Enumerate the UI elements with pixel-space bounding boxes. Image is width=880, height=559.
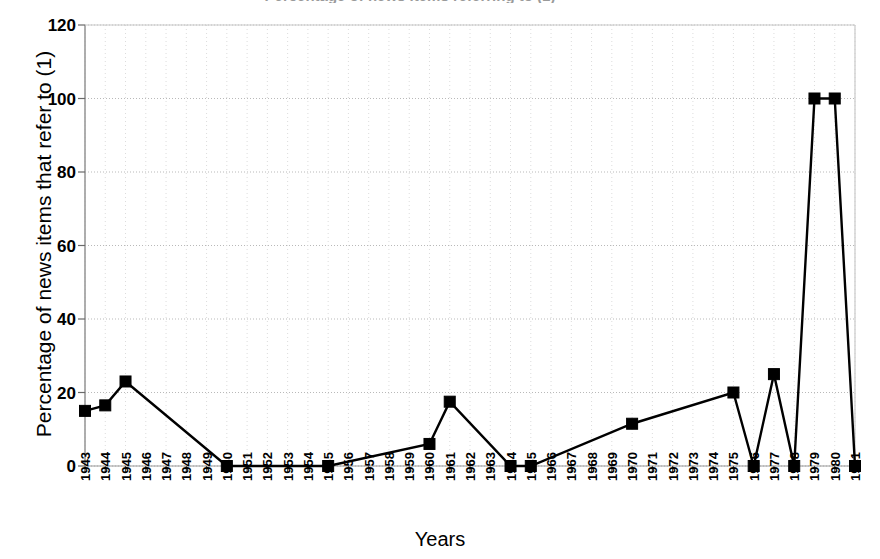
x-tick-label-1959: 1959	[403, 452, 416, 504]
x-tick-label-1976: 1976	[748, 452, 761, 504]
chart-figure: Percentage of news items referring to (1…	[0, 0, 880, 559]
x-tick-label-1964: 1964	[505, 452, 518, 504]
x-tick-label-1980: 1980	[829, 452, 842, 504]
x-tick-label-1971: 1971	[646, 452, 659, 504]
x-tick-label-1960: 1960	[423, 452, 436, 504]
x-tick-label-1955: 1955	[322, 452, 335, 504]
x-tick-label-1957: 1957	[363, 452, 376, 504]
x-tick-label-1981: 1981	[849, 452, 862, 504]
x-tick-label-1963: 1963	[484, 452, 497, 504]
x-tick-label-1962: 1962	[464, 452, 477, 504]
x-tick-label-1953: 1953	[282, 452, 295, 504]
x-tick-label-1944: 1944	[99, 452, 112, 504]
x-tick-label-1950: 1950	[221, 452, 234, 504]
x-tick-label-1975: 1975	[727, 452, 740, 504]
x-tick-label-1974: 1974	[707, 452, 720, 504]
x-tick-label-1954: 1954	[302, 452, 315, 504]
x-tick-label-1970: 1970	[626, 452, 639, 504]
x-tick-label-1946: 1946	[140, 452, 153, 504]
x-tick-label-1943: 1943	[79, 452, 92, 504]
x-tick-label-1968: 1968	[586, 452, 599, 504]
x-axis-title: Years	[0, 528, 880, 551]
x-tick-label-1969: 1969	[606, 452, 619, 504]
x-tick-label-1966: 1966	[545, 452, 558, 504]
x-tick-label-1951: 1951	[241, 452, 254, 504]
x-tick-label-1972: 1972	[667, 452, 680, 504]
x-tick-label-1979: 1979	[808, 452, 821, 504]
x-tick-label-1952: 1952	[261, 452, 274, 504]
x-tick-label-1977: 1977	[768, 452, 781, 504]
x-tick-label-1965: 1965	[525, 452, 538, 504]
x-tick-label-1973: 1973	[687, 452, 700, 504]
x-tick-label-1945: 1945	[120, 452, 133, 504]
x-tick-label-1978: 1978	[788, 452, 801, 504]
x-axis-tick-labels: 1943194419451946194719481949195019511952…	[0, 0, 880, 559]
x-tick-label-1949: 1949	[201, 452, 214, 504]
x-tick-label-1958: 1958	[383, 452, 396, 504]
x-tick-label-1961: 1961	[444, 452, 457, 504]
x-tick-label-1956: 1956	[342, 452, 355, 504]
x-tick-label-1948: 1948	[180, 452, 193, 504]
x-tick-label-1967: 1967	[565, 452, 578, 504]
x-tick-label-1947: 1947	[160, 452, 173, 504]
